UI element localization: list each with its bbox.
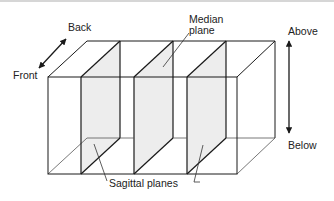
sagittal-planes-diagram	[0, 0, 334, 201]
label-above: Above	[288, 25, 318, 37]
label-below: Below	[288, 139, 317, 151]
label-sagittal-planes: Sagittal planes	[109, 177, 178, 189]
label-median-line2: plane	[189, 24, 215, 36]
label-back: Back	[68, 21, 91, 33]
sagittal-plane-3	[187, 41, 226, 174]
label-front: Front	[13, 69, 38, 81]
sagittal-plane-1	[81, 41, 120, 174]
